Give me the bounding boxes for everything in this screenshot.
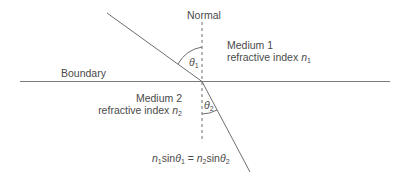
medium1-index: refractive index n1 [227, 51, 311, 67]
medium2-index: refractive index n2 [98, 104, 182, 120]
theta1-label: θ1 [189, 56, 199, 72]
medium1-label: Medium 1 refractive index n1 [227, 39, 311, 67]
theta2-label: θ2 [204, 99, 214, 115]
snells-law-equation: n1sinθ1 = n2sinθ2 [152, 152, 230, 168]
boundary-label: Boundary [61, 67, 106, 79]
incident-ray [107, 13, 202, 82]
medium1-name: Medium 1 [227, 39, 311, 51]
normal-label: Normal [187, 9, 221, 21]
medium2-name: Medium 2 [98, 92, 182, 104]
medium2-label: Medium 2 refractive index n2 [98, 92, 182, 120]
